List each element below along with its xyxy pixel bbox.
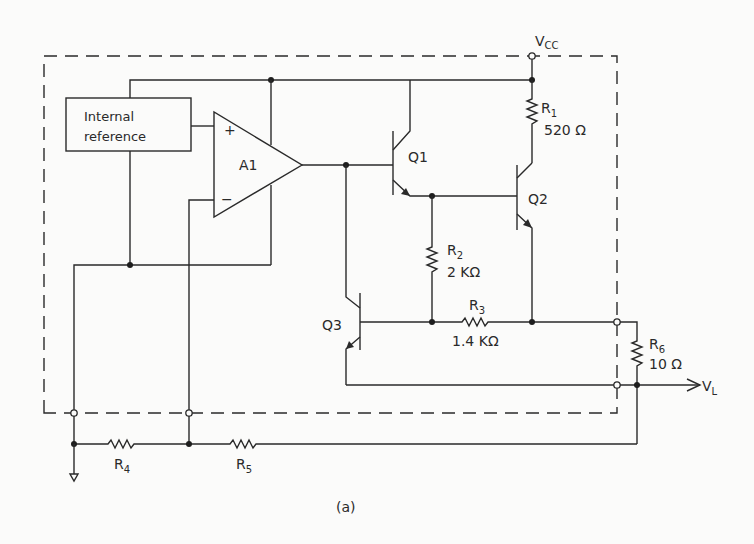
q1-label: Q1 bbox=[408, 149, 428, 165]
r3-label: R3 bbox=[469, 297, 485, 316]
ground-line bbox=[74, 265, 271, 410]
q3-emitter-arrow bbox=[346, 341, 354, 349]
q2-label: Q2 bbox=[528, 191, 548, 207]
resistor-r1: R1 520 Ω bbox=[527, 80, 586, 163]
minus-sign: − bbox=[221, 191, 233, 207]
r3-value: 1.4 KΩ bbox=[452, 333, 499, 349]
feedback-wire bbox=[189, 200, 214, 410]
opamp-a1: + − A1 bbox=[214, 112, 302, 217]
resistor-r5-wire bbox=[189, 440, 637, 448]
r2-value: 2 KΩ bbox=[447, 264, 481, 280]
pin-feedback bbox=[186, 410, 192, 416]
pin-output bbox=[614, 382, 620, 388]
resistor-r4: R4 bbox=[114, 456, 130, 475]
internal-reference-label-2: reference bbox=[84, 129, 146, 144]
ground-icon bbox=[70, 474, 78, 481]
junction-dot bbox=[127, 262, 133, 268]
r1-label: R1 bbox=[541, 100, 557, 119]
transistor-q2: Q2 bbox=[517, 163, 548, 322]
r4-label: R4 bbox=[114, 456, 130, 475]
internal-reference-block: Internal reference bbox=[66, 98, 191, 151]
pin-ground bbox=[71, 410, 77, 416]
q3-label: Q3 bbox=[322, 317, 342, 333]
r1-value: 520 Ω bbox=[544, 122, 586, 138]
transistor-q1: Q1 bbox=[393, 80, 432, 196]
resistor-r4-wire bbox=[74, 416, 189, 448]
pin-current-sense bbox=[614, 319, 620, 325]
opamp-label: A1 bbox=[239, 157, 257, 173]
transistor-q3: Q3 bbox=[322, 165, 360, 385]
junction-dot bbox=[529, 319, 535, 325]
resistor-r6: R6 10 Ω bbox=[620, 322, 682, 444]
r6-value: 10 Ω bbox=[649, 356, 682, 372]
junction-dot bbox=[634, 382, 640, 388]
figure-caption: (a) bbox=[336, 499, 356, 515]
internal-reference-label-1: Internal bbox=[84, 109, 134, 124]
junction-dot bbox=[429, 319, 435, 325]
vcc-label: VCC bbox=[535, 33, 559, 51]
regulator-schematic: VCC Internal reference + − A1 Q1 bbox=[0, 0, 754, 544]
plus-sign: + bbox=[224, 122, 236, 138]
r6-label: R6 bbox=[649, 336, 665, 355]
junction-dot bbox=[186, 441, 192, 447]
sense-line bbox=[360, 318, 614, 326]
vl-label: VL bbox=[702, 378, 718, 397]
r2-label: R2 bbox=[447, 242, 463, 261]
r5-label: R5 bbox=[236, 456, 252, 475]
supply-rail bbox=[130, 80, 532, 98]
resistor-r5: R5 bbox=[236, 456, 252, 475]
